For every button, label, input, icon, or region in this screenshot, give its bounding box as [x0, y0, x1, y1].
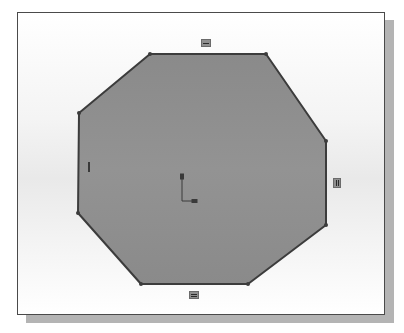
vertex-point[interactable]: [77, 111, 81, 115]
sketch-canvas[interactable]: [18, 13, 385, 315]
horizontal-line-glyph: [191, 294, 197, 295]
vertical-line-glyph: [338, 180, 339, 186]
vertex-point[interactable]: [148, 52, 152, 56]
graphics-viewport[interactable]: [17, 12, 385, 315]
vertex-point[interactable]: [246, 282, 250, 286]
vertical-line-glyph: [336, 180, 337, 186]
horizontal-line-glyph: [191, 296, 197, 297]
vertex-point[interactable]: [324, 139, 328, 143]
vertex-point[interactable]: [139, 282, 143, 286]
vertical-relation-icon[interactable]: [88, 162, 90, 172]
vertex-point[interactable]: [264, 52, 268, 56]
vertex-point[interactable]: [76, 211, 80, 215]
horizontal-relation-icon[interactable]: [189, 291, 199, 299]
vertical-relation-icon[interactable]: [333, 178, 341, 188]
vertex-point[interactable]: [324, 223, 328, 227]
octagon-sketch-profile[interactable]: [78, 54, 326, 284]
horizontal-relation-icon[interactable]: [201, 39, 211, 47]
cad-sketch-screenshot: [0, 0, 404, 333]
horizontal-line-glyph: [203, 43, 209, 44]
